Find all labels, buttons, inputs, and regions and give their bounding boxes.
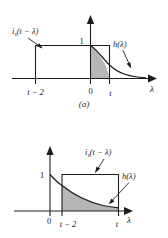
tick-label-zero-a: 0 [88, 86, 92, 96]
amplitude-label-b: 1 [40, 170, 44, 180]
tick-label-t-minus-2-b: t − 2 [60, 219, 77, 229]
impulse-label-b: h(λ) [122, 171, 136, 181]
impulse-label-a: h(λ) [113, 39, 127, 49]
x-axis-label-b: λ [126, 215, 131, 225]
x-axis-arrow-a [148, 75, 157, 83]
tick-label-t-minus-2-a: t − 2 [27, 87, 44, 97]
tick-label-zero-b: 0 [47, 216, 51, 226]
signal-label-arg-b: (t − λ) [90, 147, 112, 157]
y-axis-arrow-a [87, 15, 94, 24]
signal-label-arg-a: (t − λ) [17, 26, 39, 36]
y-axis-arrow-b [46, 146, 53, 155]
amplitude-label-a: 1 [79, 36, 83, 46]
tick-label-t-a: t [109, 88, 112, 98]
signal-label-a: is(t − λ) [12, 26, 39, 37]
convolution-figure: 1 t − 2 0 t λ is(t − λ) h(λ) (a) [0, 0, 168, 238]
x-axis-arrow-b [124, 207, 133, 215]
panel-b: 1 0 t − 2 t λ is(t − λ) h(λ) (b) [0, 119, 168, 238]
signal-label-b: is(t − λ) [85, 147, 112, 158]
panel-a: 1 t − 2 0 t λ is(t − λ) h(λ) (a) [0, 0, 168, 119]
tick-label-t-b: t [116, 219, 119, 229]
caption-a: (a) [0, 99, 168, 109]
signal-leader-arrow-b [95, 167, 100, 173]
x-axis-label-a: λ [149, 84, 154, 94]
impulse-leader-arrow-a [127, 62, 132, 68]
